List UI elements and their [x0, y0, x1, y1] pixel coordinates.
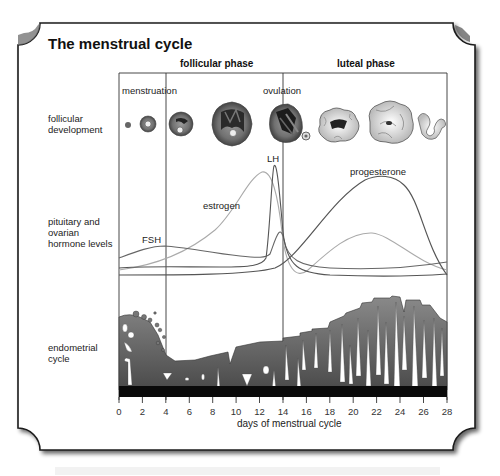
x-tick-22: 22	[371, 406, 382, 417]
ovulation-label: ovulation	[263, 85, 301, 96]
x-tick-16: 16	[301, 406, 312, 417]
x-tick-12: 12	[254, 406, 265, 417]
follicular-row-label-line1: follicular	[48, 113, 102, 124]
progesterone-label: progesterone	[350, 166, 406, 177]
fsh-label: FSH	[142, 234, 161, 245]
hormone-row-label-line3: hormone levels	[48, 238, 112, 249]
follicular-row-label: follicular development	[48, 113, 102, 135]
x-tick-0: 0	[116, 406, 121, 417]
x-tick-20: 20	[348, 406, 359, 417]
hormone-row-label-line1: pituitary and	[48, 216, 112, 227]
x-tick-6: 6	[187, 406, 192, 417]
x-tick-14: 14	[278, 406, 289, 417]
estrogen-label: estrogen	[203, 200, 240, 211]
x-tick-2: 2	[140, 406, 145, 417]
x-axis-label: days of menstrual cycle	[237, 418, 342, 429]
corpus-luteum-early	[319, 108, 359, 142]
follicular-row-label-line2: development	[48, 124, 102, 135]
diagram-title: The menstrual cycle	[48, 35, 192, 52]
x-tick-4: 4	[163, 406, 168, 417]
x-tick-26: 26	[418, 406, 429, 417]
endometrial-row-label-line1: endometrial	[48, 342, 98, 353]
endometrial-row-label: endometrial cycle	[48, 342, 98, 364]
endometrial-row-label-line2: cycle	[48, 353, 98, 364]
follicle-stage-3	[169, 112, 193, 136]
follicular-phase-label: follicular phase	[180, 58, 253, 69]
hormone-row-label-line2: ovarian	[48, 227, 112, 238]
lh-label: LH	[267, 153, 279, 164]
endometrial-basal-layer	[119, 386, 447, 397]
menstrual-cycle-diagram: The menstrual cycle follicular phase lut…	[0, 0, 500, 476]
x-tick-8: 8	[210, 406, 215, 417]
follicle-stage-1	[125, 122, 131, 128]
follicle-stage-4	[212, 102, 252, 146]
x-tick-18: 18	[325, 406, 336, 417]
follicle-stage-2	[140, 116, 156, 132]
hormone-row-label: pituitary and ovarian hormone levels	[48, 216, 112, 249]
x-tick-28: 28	[442, 406, 453, 417]
menstruation-label: menstruation	[122, 85, 177, 96]
x-tick-24: 24	[395, 406, 406, 417]
card-reflection	[55, 467, 440, 475]
corpus-luteum-mature	[369, 101, 413, 143]
luteal-phase-label: luteal phase	[337, 58, 395, 69]
x-tick-10: 10	[231, 406, 242, 417]
